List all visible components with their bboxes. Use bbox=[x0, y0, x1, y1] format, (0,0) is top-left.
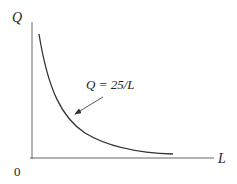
curve-q-25-over-l bbox=[39, 34, 173, 154]
x-axis-label: L bbox=[218, 152, 226, 166]
y-axis-label: Q bbox=[12, 11, 22, 25]
annotation-arrow bbox=[75, 97, 103, 114]
chart-canvas bbox=[0, 0, 237, 184]
curve-annotation: Q = 25/L bbox=[86, 78, 135, 91]
origin-label: 0 bbox=[14, 165, 21, 178]
